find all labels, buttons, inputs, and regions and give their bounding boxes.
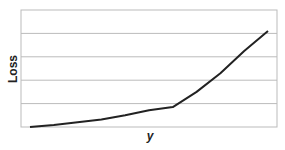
y-axis-label: Loss [6, 55, 20, 83]
x-axis-label: y [147, 129, 154, 143]
gridlines [21, 33, 277, 103]
loss-curve [30, 31, 268, 127]
plot-area [0, 0, 285, 150]
